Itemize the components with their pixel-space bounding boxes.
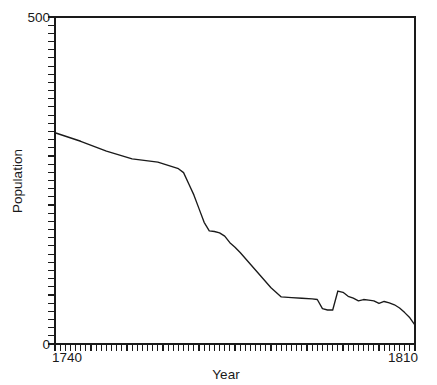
x-axis-tick-group: [55, 344, 415, 351]
y-axis-min-label: 0: [42, 337, 50, 352]
plot-frame: [55, 17, 415, 344]
x-axis-min-label: 1740: [52, 350, 82, 365]
x-axis-max-label: 1810: [388, 350, 418, 365]
population-data-line: [55, 133, 415, 325]
y-axis-tick-group: [48, 17, 55, 344]
y-axis-max-label: 500: [27, 10, 50, 25]
axis-top-left-right-frame: [55, 17, 415, 344]
chart-container: 500 0 1740 1810 Year Population: [0, 0, 437, 385]
y-axis-title: Population: [10, 149, 25, 213]
population-line-chart: 500 0 1740 1810 Year Population: [0, 0, 437, 385]
x-axis-title: Year: [212, 367, 240, 382]
